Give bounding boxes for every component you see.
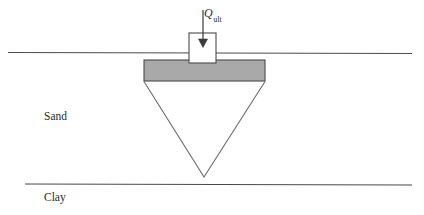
ultimate-load-label: Qult (204, 7, 221, 22)
bearing-capacity-diagram: Sand Clay Qult (0, 0, 424, 215)
load-subscript: ult (213, 15, 221, 24)
stratum-label-clay: Clay (44, 192, 66, 204)
stratum-label-sand: Sand (44, 111, 67, 123)
sand-clay-interface-line (25, 184, 412, 185)
diagram-canvas (0, 0, 424, 215)
load-symbol: Q (204, 6, 213, 20)
failure-wedge-outline (144, 82, 265, 178)
